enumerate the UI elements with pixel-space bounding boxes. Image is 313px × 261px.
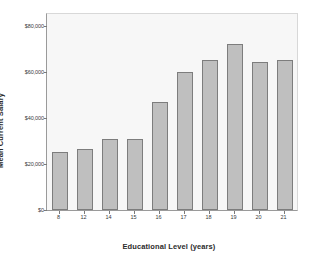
bar-chart: Mean Current Salary $0$20,000$40,000$60,… <box>0 0 313 261</box>
x-axis-tick-label: 14 <box>105 214 111 220</box>
plot-area: $0$20,000$40,000$60,000$80,000 <box>46 13 298 211</box>
y-axis-tick-label: $60,000 <box>25 69 47 75</box>
x-axis-tick-label: 17 <box>180 214 186 220</box>
x-axis-tick-label: 19 <box>230 214 236 220</box>
y-axis-tick-label: $0 <box>38 207 47 213</box>
x-axis-title: Educational Level (years) <box>46 242 292 251</box>
bar <box>277 60 293 210</box>
bar <box>77 149 93 210</box>
bar <box>227 44 243 210</box>
x-axis-tick-label: 16 <box>155 214 161 220</box>
y-axis-tick-label: $20,000 <box>25 161 47 167</box>
plot-inner: $0$20,000$40,000$60,000$80,000 <box>47 14 297 210</box>
x-axis-tick-label: 8 <box>57 214 60 220</box>
y-axis-title: Mean Current Salary <box>0 0 22 261</box>
bar <box>202 60 218 210</box>
x-axis-tick-label: 18 <box>205 214 211 220</box>
bar <box>127 139 143 210</box>
x-axis-tick-label: 20 <box>255 214 261 220</box>
x-axis-tick-label: 12 <box>80 214 86 220</box>
bar <box>52 152 68 210</box>
bar <box>102 139 118 210</box>
y-axis-tick-label: $40,000 <box>25 115 47 121</box>
bar <box>152 102 168 210</box>
x-axis-tick-label: 15 <box>130 214 136 220</box>
y-axis-tick-label: $80,000 <box>25 23 47 29</box>
bar <box>177 72 193 210</box>
bar <box>252 62 268 210</box>
x-axis-tick-label: 21 <box>280 214 286 220</box>
